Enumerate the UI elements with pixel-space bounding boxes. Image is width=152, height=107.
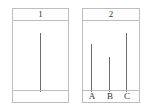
stick-b xyxy=(109,57,110,92)
label-a: A xyxy=(86,91,98,102)
panel-1-title: 1 xyxy=(13,9,68,21)
panel-1: 1 xyxy=(12,8,69,103)
panel-1-stick xyxy=(40,33,41,92)
label-c: C xyxy=(121,91,133,102)
label-b: B xyxy=(104,91,116,102)
panel-1-footer xyxy=(13,90,68,102)
panel-2-title: 2 xyxy=(83,9,139,21)
stick-a xyxy=(91,44,92,92)
panel-2: 2 A B C xyxy=(82,8,140,103)
stick-c xyxy=(126,33,127,92)
panel-2-footer: A B C xyxy=(83,90,139,102)
